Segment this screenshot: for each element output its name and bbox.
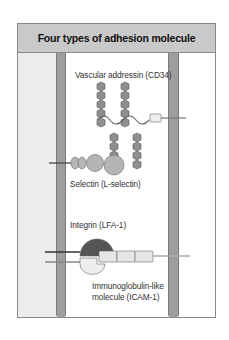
glycan-chain-4 xyxy=(133,133,141,169)
label-icam-line2: molecule (ICAM-1) xyxy=(92,292,159,302)
selectin-molecule xyxy=(49,155,124,176)
label-icam-line1: Immunoglobulin-like xyxy=(92,281,164,291)
label-cd34: Vascular addressin (CD34) xyxy=(75,70,172,80)
integrin-icam-complex xyxy=(45,239,190,274)
label-selectin: Selectin (L-selectin) xyxy=(70,179,141,189)
label-integrin: Integrin (LFA-1) xyxy=(70,220,126,230)
glycan-chain-1 xyxy=(97,82,105,127)
